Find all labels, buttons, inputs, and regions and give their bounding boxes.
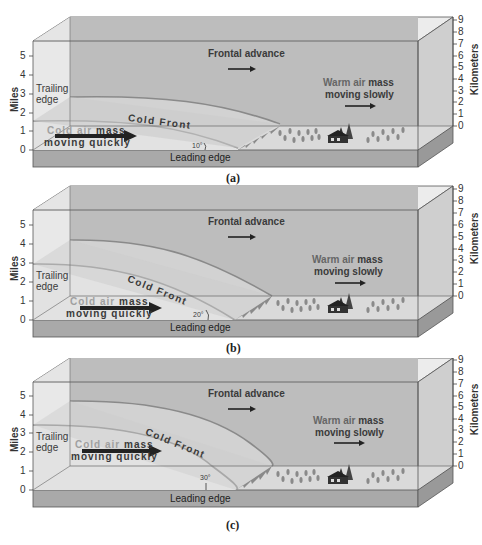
miles-tick: 3: [20, 257, 26, 268]
cold-air-label: Cold air mass: [70, 296, 149, 307]
km-tick: 7: [458, 38, 464, 49]
km-tick: 4: [458, 413, 464, 424]
warm-air-text: Warm air: [323, 77, 365, 88]
km-tick: 9: [458, 14, 464, 25]
km-axis-title: Kilometers: [469, 44, 480, 96]
slope-angle-label: 30°: [200, 474, 211, 481]
trailing-edge-label: Trailingedge: [36, 270, 68, 292]
trailing-edge-label: Trailingedge: [36, 431, 68, 453]
km-tick: 3: [458, 85, 464, 96]
moving-quickly-label: moving quickly: [66, 308, 153, 319]
km-tick: 9: [458, 183, 464, 194]
miles-tick: 3: [20, 427, 26, 438]
miles-tick: 4: [20, 238, 26, 249]
miles-tick: 3: [20, 88, 26, 99]
moving-quickly-label: moving quickly: [71, 451, 158, 462]
km-tick: 6: [458, 390, 464, 401]
km-tick: 1: [458, 108, 464, 119]
km-tick: 2: [458, 96, 464, 107]
km-tick: 5: [458, 231, 464, 242]
km-tick: 3: [458, 424, 464, 435]
miles-tick: 2: [20, 107, 26, 118]
moving-quickly-label: moving quickly: [44, 137, 131, 148]
cold-air-label: Cold air mass: [47, 125, 126, 136]
panel-c: 5 4 3 2 1 0 Miles 9 8 7 6 5 4 3 2 1 0 Ki…: [0, 358, 482, 545]
leading-edge-label: Leading edge: [170, 493, 231, 504]
moving-slowly-label: moving slowly: [325, 89, 394, 100]
km-tick: 1: [458, 448, 464, 459]
miles-tick: 0: [20, 144, 26, 155]
km-tick: 2: [458, 436, 464, 447]
km-tick: 2: [458, 266, 464, 277]
mass-text: mass: [368, 77, 394, 88]
trailing-text: Trailing: [36, 431, 68, 442]
km-tick: 4: [458, 243, 464, 254]
km-axis-title: Kilometers: [469, 384, 480, 436]
miles-tick: 2: [20, 446, 26, 457]
km-tick: 0: [458, 460, 464, 471]
slope-angle-label: 10°: [192, 142, 203, 149]
km-tick: 4: [458, 73, 464, 84]
km-tick: 7: [458, 207, 464, 218]
moving-slowly-label: moving slowly: [315, 427, 384, 438]
km-tick: 0: [458, 290, 464, 301]
frontal-advance-label: Frontal advance: [208, 388, 285, 399]
miles-tick: 0: [20, 314, 26, 325]
mass-text: mass: [358, 415, 384, 426]
miles-axis-title: Miles: [9, 256, 20, 281]
km-tick: 6: [458, 219, 464, 230]
warm-air-label: Warm air mass: [312, 254, 383, 265]
edge-text: edge: [36, 94, 58, 105]
miles-tick: 1: [20, 125, 26, 136]
mass-text: mass: [357, 254, 383, 265]
km-tick: 8: [458, 366, 464, 377]
warm-air-label: Warm air mass: [313, 415, 384, 426]
trailing-edge-label: Trailingedge: [36, 83, 68, 105]
leading-edge-label: Leading edge: [170, 322, 231, 333]
edge-text: edge: [36, 281, 58, 292]
warm-air-text: Warm air: [312, 254, 354, 265]
cold-air-text: Cold air: [75, 439, 120, 450]
slope-angle-label: 20°: [193, 311, 204, 318]
km-tick: 7: [458, 378, 464, 389]
frontal-advance-label: Frontal advance: [208, 216, 285, 227]
km-tick: 9: [458, 354, 464, 365]
mass-text: mass: [96, 125, 126, 136]
miles-tick: 5: [20, 390, 26, 401]
mass-text: mass: [119, 296, 149, 307]
km-tick: 5: [458, 61, 464, 72]
leading-edge-label: Leading edge: [170, 152, 231, 163]
km-tick: 8: [458, 195, 464, 206]
miles-tick: 0: [20, 484, 26, 495]
miles-tick: 1: [20, 295, 26, 306]
frontal-advance-label: Frontal advance: [208, 48, 285, 59]
km-tick: 5: [458, 401, 464, 412]
cold-front-diagram-b: [0, 179, 482, 359]
trailing-text: Trailing: [36, 270, 68, 281]
km-tick: 3: [458, 254, 464, 265]
km-tick: 8: [458, 26, 464, 37]
km-tick: 0: [458, 120, 464, 131]
panel-a: 5 4 3 2 1 0 Miles 9 8 7 6 5 4 3 2 1 0 Ki…: [0, 0, 482, 180]
miles-tick: 5: [20, 219, 26, 230]
mass-text: mass: [124, 439, 154, 450]
miles-axis-title: Miles: [9, 87, 20, 112]
miles-tick: 1: [20, 465, 26, 476]
km-tick: 6: [458, 50, 464, 61]
panel-caption: (b): [226, 341, 241, 356]
cold-air-label: Cold air mass: [75, 439, 154, 450]
panel-b: 5 4 3 2 1 0 Miles 9 8 7 6 5 4 3 2 1 0 Ki…: [0, 179, 482, 359]
km-axis-title: Kilometers: [469, 213, 480, 265]
panel-caption: (c): [226, 518, 239, 533]
trailing-text: Trailing: [36, 83, 68, 94]
cold-air-text: Cold air: [47, 125, 92, 136]
miles-tick: 5: [20, 50, 26, 61]
cold-front-diagram-a: [0, 0, 482, 180]
miles-tick: 4: [20, 69, 26, 80]
km-tick: 1: [458, 278, 464, 289]
edge-text: edge: [36, 442, 58, 453]
cold-air-text: Cold air: [70, 296, 115, 307]
miles-axis-title: Miles: [9, 427, 20, 452]
moving-slowly-label: moving slowly: [314, 266, 383, 277]
miles-tick: 2: [20, 276, 26, 287]
